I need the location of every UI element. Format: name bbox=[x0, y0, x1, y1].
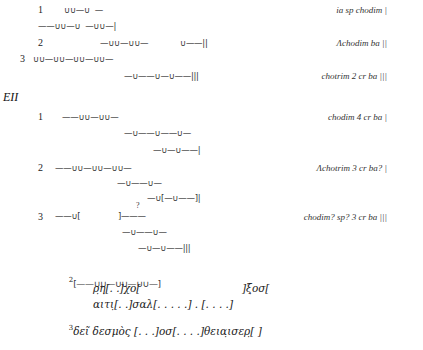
greek-text-fragment: δεῖ δεσμὸς [. . .]οσ[. . . .]θεια̣ισερ̣[… bbox=[73, 324, 262, 336]
uncertainty-mark: ? bbox=[136, 202, 140, 210]
greek-text-fragment: ]ξ̣οσ[ bbox=[242, 283, 269, 294]
metrical-annotation: chodim? sp? 3 cr ba ||| bbox=[304, 213, 387, 222]
metrical-scheme-continued: ∪——|| bbox=[180, 39, 207, 48]
line-number: 2 bbox=[38, 38, 43, 48]
metrical-annotation: ia sp chodim | bbox=[336, 6, 387, 15]
metrical-scheme-continued: ]——— bbox=[118, 212, 146, 221]
metrical-annotation: chodim 4 cr ba | bbox=[328, 113, 387, 122]
metrical-scheme: —∪——∪— bbox=[122, 228, 167, 237]
line-number: 2 bbox=[38, 163, 43, 173]
greek-line-3: 3δεῖ δεσμὸς [. . .]οσ[. . . .]θεια̣ισερ̣… bbox=[62, 314, 262, 336]
metrical-scheme: ——∪∪—∪ —∪∪—| bbox=[38, 22, 116, 31]
metrical-scheme: ∪∪—∪∪—∪∪—∪∪— bbox=[33, 55, 113, 64]
metrical-annotation: Λchotrim 3 cr ba? | bbox=[317, 164, 387, 173]
metrical-annotation: chotrim 2 cr ba ||| bbox=[322, 72, 387, 81]
metrical-scheme: —∪—∪——| bbox=[153, 146, 200, 155]
metrical-scheme: —∪——∪—∪——||| bbox=[124, 72, 199, 81]
line-number: 1 bbox=[38, 112, 43, 122]
metrical-scheme: —∪∪—∪∪— bbox=[100, 39, 148, 48]
line-number: 3 bbox=[20, 54, 25, 64]
metrical-scheme: —∪——∪— bbox=[117, 179, 162, 188]
line-number: 3 bbox=[38, 212, 43, 222]
greek-text-fragment: ρ̣η̣[. .]χο[ bbox=[93, 283, 140, 294]
line-number: 1 bbox=[38, 5, 43, 15]
metrical-scheme: —∪[—∪——]| bbox=[147, 194, 200, 203]
metrical-scheme: ——∪∪—∪∪—∪∪— bbox=[55, 164, 132, 173]
metrical-scheme: —∪——∪——∪— bbox=[124, 129, 191, 138]
metrical-scheme: ∪∪—∪ — bbox=[64, 6, 103, 15]
metrical-annotation: Λchodim ba || bbox=[337, 39, 387, 48]
metrical-scheme: —∪—∪——||| bbox=[138, 244, 190, 253]
section-heading: EII bbox=[3, 91, 18, 103]
greek-text-fragment: αιτι̣[. .]σαλ[. . . . .] . [. . . .] bbox=[93, 299, 233, 310]
metrical-scheme: ——∪∪—∪∪— bbox=[62, 113, 119, 122]
metrical-scheme: ——∪[ bbox=[55, 212, 80, 221]
